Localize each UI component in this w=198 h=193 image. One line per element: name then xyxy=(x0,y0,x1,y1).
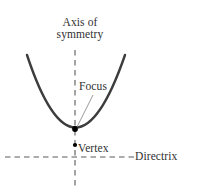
focus-label: Focus xyxy=(79,80,107,92)
axis-of-symmetry-label-line1: Axis of xyxy=(40,16,120,28)
parabola-diagram: Axis of symmetry Focus Vertex Directrix xyxy=(0,0,198,193)
parabola-curve xyxy=(27,55,125,128)
axis-of-symmetry-label: Axis of symmetry xyxy=(40,16,120,40)
vertex-point xyxy=(73,143,77,147)
directrix-label: Directrix xyxy=(135,150,177,162)
focus-leader-line xyxy=(77,95,93,127)
vertex-label: Vertex xyxy=(78,142,109,154)
focus-point xyxy=(72,126,78,132)
axis-of-symmetry-label-line2: symmetry xyxy=(40,28,120,40)
